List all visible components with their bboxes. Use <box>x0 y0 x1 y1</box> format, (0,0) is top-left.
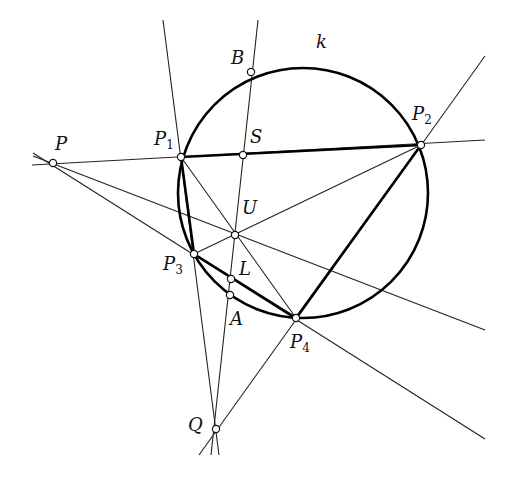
point-U <box>231 231 238 238</box>
point-L <box>227 275 234 282</box>
point-labels: PP1P2P3P4BSULAQ <box>54 47 432 435</box>
point-P <box>49 159 56 166</box>
point-P1 <box>177 153 184 160</box>
segment-P1-P2 <box>181 145 421 157</box>
label-A: A <box>228 308 243 329</box>
point-A <box>226 291 233 298</box>
label-L: L <box>238 258 251 279</box>
point-S <box>239 151 246 158</box>
construction-lines <box>32 20 485 455</box>
point-P2 <box>417 141 424 148</box>
label-P4: P4 <box>289 331 310 355</box>
point-P4 <box>292 314 299 321</box>
label-U: U <box>242 197 258 218</box>
point-B <box>247 68 254 75</box>
circle-label-k: k <box>316 31 327 52</box>
geometry-diagram: PP1P2P3P4BSULAQ k <box>0 0 509 479</box>
label-Q: Q <box>188 414 203 435</box>
points <box>49 68 424 432</box>
line-P3-P2 <box>194 145 421 254</box>
circle-k <box>178 68 428 318</box>
label-P1: P1 <box>153 128 174 152</box>
label-S: S <box>250 126 262 147</box>
point-Q <box>212 425 219 432</box>
segment-P2-P4 <box>296 145 421 318</box>
label-P3: P3 <box>162 253 183 277</box>
label-P: P <box>54 133 68 154</box>
label-P2: P2 <box>411 103 432 127</box>
point-P3 <box>190 250 197 257</box>
label-B: B <box>230 47 244 68</box>
